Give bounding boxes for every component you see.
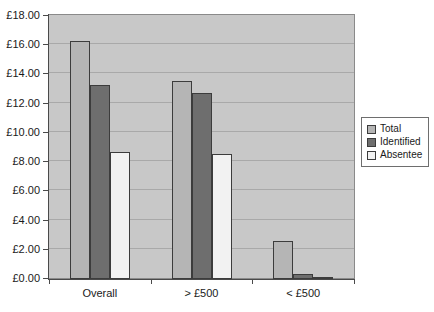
legend-item[interactable]: Total: [367, 123, 422, 135]
legend-item[interactable]: Identified: [367, 136, 422, 148]
legend-label: Total: [380, 123, 401, 135]
y-tick-mark: [43, 103, 48, 104]
x-tick-label: Overall: [82, 287, 117, 299]
legend: TotalIdentifiedAbsentee: [361, 117, 429, 167]
y-tick-mark: [43, 44, 48, 45]
x-tick-mark: [252, 279, 253, 284]
y-tick-label: £2.00: [12, 243, 40, 255]
y-tick-label: £0.00: [12, 272, 40, 284]
y-tick-mark: [43, 220, 48, 221]
legend-swatch-icon: [367, 125, 376, 134]
bar: [313, 277, 333, 279]
legend-swatch-icon: [367, 138, 376, 147]
y-tick-mark: [43, 73, 48, 74]
legend-swatch-icon: [367, 151, 376, 160]
bar: [293, 274, 313, 279]
y-tick-label: £16.00: [6, 38, 40, 50]
bar-chart: £0.00£2.00£4.00£6.00£8.00£10.00£12.00£14…: [0, 0, 434, 312]
y-tick-label: £8.00: [12, 155, 40, 167]
bar: [90, 85, 110, 279]
x-axis: [48, 279, 355, 280]
y-tick-label: £10.00: [6, 126, 40, 138]
x-tick-mark: [49, 279, 50, 284]
legend-label: Identified: [380, 136, 421, 148]
y-tick-label: £4.00: [12, 214, 40, 226]
x-tick-mark: [151, 279, 152, 284]
y-tick-label: £12.00: [6, 97, 40, 109]
y-tick-mark: [43, 161, 48, 162]
bar: [172, 81, 192, 279]
bar: [70, 41, 90, 279]
y-tick-label: £14.00: [6, 67, 40, 79]
bar: [110, 152, 130, 279]
y-tick-label: £18.00: [6, 9, 40, 21]
legend-item[interactable]: Absentee: [367, 149, 422, 161]
legend-label: Absentee: [380, 149, 422, 161]
y-tick-mark: [43, 249, 48, 250]
x-tick-label: < £500: [286, 287, 320, 299]
bar: [212, 154, 232, 279]
bar: [192, 93, 212, 279]
x-tick-mark: [354, 279, 355, 284]
bar: [273, 241, 293, 279]
y-tick-mark: [43, 132, 48, 133]
bars-layer: [49, 15, 354, 279]
y-tick-mark: [43, 15, 48, 16]
y-tick-mark: [43, 190, 48, 191]
x-tick-label: > £500: [185, 287, 219, 299]
y-tick-label: £6.00: [12, 184, 40, 196]
